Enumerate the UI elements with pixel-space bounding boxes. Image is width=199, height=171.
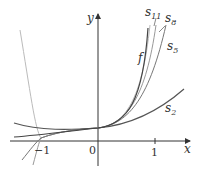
curve-f xyxy=(14,28,148,137)
tick-label-neg1: −1 xyxy=(34,144,50,157)
origin-label: 0 xyxy=(89,144,96,157)
curve-label-s8: s8 xyxy=(165,11,176,27)
x-axis-label: x xyxy=(184,142,191,156)
curve-label-s11: s11 xyxy=(145,5,161,21)
curve-s5 xyxy=(22,25,166,160)
curve-s2 xyxy=(14,89,184,129)
curve-label-s2: s2 xyxy=(165,101,176,117)
y-axis-label: y xyxy=(86,11,94,25)
curve-label-s5: s5 xyxy=(167,39,178,55)
tick-label-1: 1 xyxy=(151,146,158,159)
graph: y x 0 −1 1 f s11 s8 s5 s2 xyxy=(0,0,199,171)
